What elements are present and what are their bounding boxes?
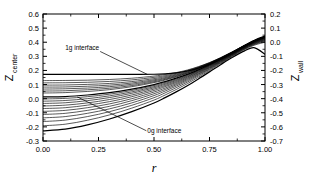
- y-right-tick-label: -0.3: [270, 81, 283, 90]
- annotation-label: 1g interface: [65, 44, 99, 52]
- x-tick-label: 0.50: [147, 145, 162, 154]
- y-left-tick-label: 0.5: [29, 24, 39, 33]
- figure-container: 0.000.250.500.751.00 0.60.50.40.30.20.10…: [0, 0, 312, 182]
- y-left-tick-label: 0.3: [29, 52, 39, 61]
- x-tick-label: 0.25: [91, 145, 106, 154]
- y-right-tick-label: -0.2: [270, 66, 283, 75]
- x-tick-label: 0.00: [36, 145, 51, 154]
- y-left-tick-label: 0.2: [29, 66, 39, 75]
- y-axis-left-title-subscript: center: [11, 53, 18, 73]
- y-right-tick-label: 0.2: [270, 10, 280, 19]
- x-tick-label: 0.75: [202, 145, 217, 154]
- y-left-tick-label: 0.4: [29, 38, 39, 47]
- y-right-tick-label: -0.4: [270, 95, 283, 104]
- y-right-tick-label: -0.1: [270, 52, 283, 61]
- x-tick-label: 1.00: [258, 145, 273, 154]
- y-right-tick-label: -0.7: [270, 137, 283, 146]
- y-axis-left-title-symbol: Z: [3, 74, 15, 81]
- y-right-tick-label: -0.5: [270, 109, 283, 118]
- y-right-tick-label: 0.0: [270, 38, 280, 47]
- y-right-tick-label: -0.6: [270, 123, 283, 132]
- annotation-label: 0g interface: [147, 127, 181, 135]
- y-left-tick-label: 0.6: [29, 10, 39, 19]
- y-axis-right-title-symbol: Z: [289, 74, 301, 81]
- y-axis-right-title-subscript: wall: [297, 60, 304, 74]
- x-axis-title: r: [152, 161, 157, 175]
- y-left-tick-label: 0.0: [29, 95, 39, 104]
- scientific-line-plot: 0.000.250.500.751.00 0.60.50.40.30.20.10…: [0, 0, 312, 182]
- y-right-tick-label: 0.1: [270, 24, 280, 33]
- y-left-tick-label: -0.3: [26, 137, 39, 146]
- y-left-tick-label: -0.2: [26, 123, 39, 132]
- y-left-tick-label: -0.1: [26, 109, 39, 118]
- y-left-tick-label: 0.1: [29, 81, 39, 90]
